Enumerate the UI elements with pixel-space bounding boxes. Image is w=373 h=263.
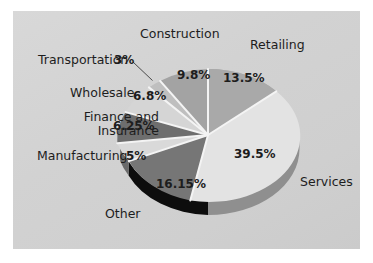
label-wholesale: Wholesale	[70, 86, 134, 100]
label-services: Services	[300, 175, 353, 189]
pie-chart-figure: Construction 9.8% Retailing 13.5% Servic…	[0, 0, 373, 263]
value-services: 39.5%	[234, 148, 276, 161]
label-retailing: Retailing	[250, 38, 305, 52]
transportation-leader-line	[133, 62, 153, 81]
label-manufacturing: Manufacturing	[37, 149, 128, 163]
label-construction: Construction	[140, 27, 220, 41]
value-finance-insurance: 6.25%	[113, 120, 155, 133]
value-other: 16.15%	[156, 178, 206, 191]
value-transportation: 3%	[114, 54, 134, 67]
value-retailing: 13.5%	[223, 72, 265, 85]
label-other: Other	[105, 207, 141, 221]
value-manufacturing: 5%	[126, 150, 146, 163]
value-construction: 9.8%	[177, 69, 210, 82]
value-wholesale: 6.8%	[133, 90, 166, 103]
